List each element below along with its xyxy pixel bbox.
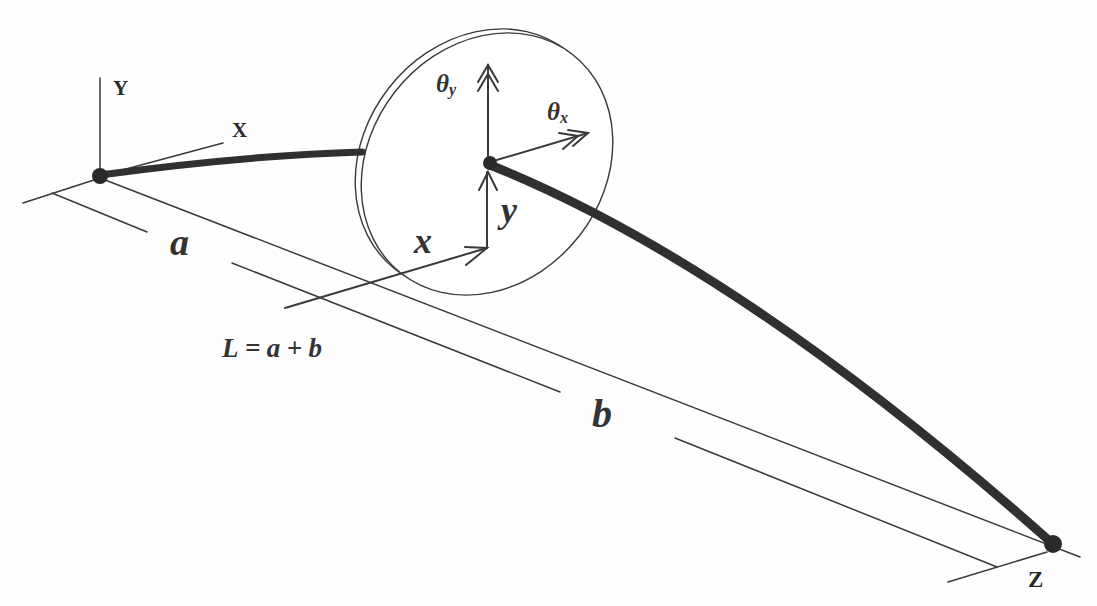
shaft-disk-diagram: Y X Z a b L=a+b x y θy θx (0, 0, 1097, 606)
global-y-axis-label: Y (113, 76, 128, 100)
global-x-axis-label: X (232, 118, 247, 142)
segment-a-label: a (170, 221, 189, 263)
right-bearing-node (1044, 535, 1062, 553)
disk-center-node (483, 156, 497, 170)
theta-x-symbol: θ (547, 98, 560, 125)
left-bearing-node (92, 168, 108, 184)
segment-b-label: b (592, 391, 612, 436)
theta-y-symbol: θ (436, 70, 449, 97)
disk-y-label: y (497, 190, 518, 230)
theta-y-subscript: y (447, 81, 457, 99)
disk-x-label: x (413, 221, 432, 261)
global-z-axis-label: Z (1028, 567, 1043, 592)
theta-x-subscript: x (559, 109, 568, 126)
